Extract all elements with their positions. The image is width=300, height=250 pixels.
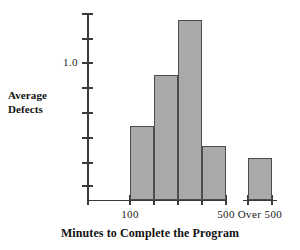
y-axis-tick-label: 1.0 [40,56,78,68]
y-axis-tick [82,13,93,15]
y-axis-tick [82,87,93,89]
bar-200 [154,75,178,200]
chart-container: 1.0 100500Over 500 Average Defects Minut… [0,0,300,250]
x-axis-tick-label: Over 500 [220,208,300,220]
y-axis-title-line-2: Defects [8,102,80,116]
y-axis-title-line-1: Average [8,88,80,102]
y-axis-tick [82,62,93,64]
bar-over-500 [248,158,272,200]
bar-300 [178,20,202,200]
x-axis-tick-label: 100 [90,208,170,220]
y-axis-tick [82,38,93,40]
x-axis-tick [87,195,89,205]
y-axis-tick [82,112,93,114]
y-axis-line [87,14,89,201]
bar-400 [202,146,226,200]
bar-100 [130,126,154,200]
y-axis-title: Average Defects [8,88,80,116]
y-axis-tick [82,185,93,187]
y-axis-tick [82,162,93,164]
x-axis-title: Minutes to Complete the Program [0,226,300,241]
y-axis-tick [82,137,93,139]
